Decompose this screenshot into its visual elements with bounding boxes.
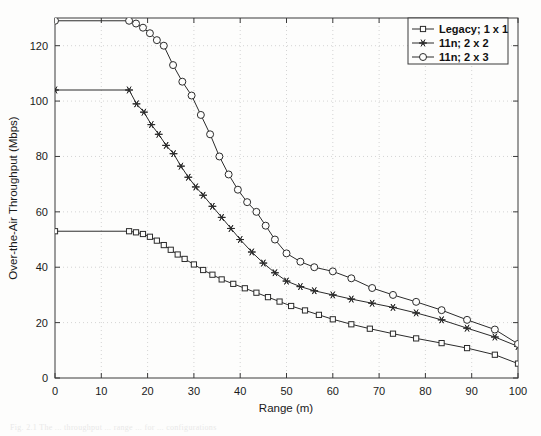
- square-marker: [367, 326, 372, 331]
- square-marker: [464, 345, 469, 350]
- square-marker: [147, 234, 152, 239]
- square-marker: [161, 242, 166, 247]
- circle-marker: [160, 42, 167, 49]
- y-tick-label: 20: [36, 317, 48, 329]
- grid-lines: [55, 18, 518, 378]
- circle-marker: [438, 307, 445, 314]
- square-marker: [289, 303, 294, 308]
- star-marker: [389, 304, 397, 311]
- square-marker: [492, 352, 497, 357]
- star-marker: [148, 121, 156, 128]
- star-marker: [125, 87, 133, 94]
- x-axis-ticks: 0102030405060708090100: [52, 18, 527, 397]
- circle-marker: [413, 298, 420, 305]
- circle-marker: [188, 92, 195, 99]
- star-marker: [412, 310, 420, 317]
- circle-marker: [216, 153, 223, 160]
- circle-marker: [52, 17, 59, 24]
- circle-marker: [234, 186, 241, 193]
- circle-marker: [329, 268, 336, 275]
- star-marker: [329, 292, 337, 299]
- x-tick-label: 50: [280, 385, 292, 397]
- square-marker: [140, 231, 145, 236]
- square-marker: [219, 277, 224, 282]
- star-marker: [297, 283, 305, 290]
- x-axis-label: Range (m): [259, 402, 313, 414]
- star-marker: [218, 214, 226, 221]
- star-marker: [227, 225, 235, 232]
- square-marker: [302, 308, 307, 313]
- square-marker: [277, 299, 282, 304]
- circle-marker: [515, 340, 522, 347]
- circle-marker: [262, 222, 269, 229]
- circle-marker: [179, 78, 186, 85]
- star-marker: [185, 174, 193, 181]
- star-marker: [463, 325, 471, 332]
- square-marker: [515, 361, 520, 366]
- star-marker: [177, 163, 185, 170]
- square-marker: [414, 336, 419, 341]
- legend-label-2: 11n; 2 x 3: [439, 51, 489, 63]
- data-series-group: [51, 17, 522, 366]
- x-tick-label: 30: [188, 385, 200, 397]
- y-tick-label: 100: [30, 95, 48, 107]
- y-tick-label: 40: [36, 261, 48, 273]
- square-marker: [154, 238, 159, 243]
- circle-marker: [348, 275, 355, 282]
- square-marker: [201, 267, 206, 272]
- x-tick-label: 80: [419, 385, 431, 397]
- chart-legend[interactable]: Legacy; 1 x 111n; 2 x 211n; 2 x 3: [408, 18, 508, 64]
- square-marker: [242, 286, 247, 291]
- square-marker: [316, 312, 321, 317]
- square-marker: [210, 272, 215, 277]
- circle-marker: [153, 37, 160, 44]
- square-marker: [191, 262, 196, 267]
- square-marker: [126, 229, 131, 234]
- star-marker: [209, 203, 217, 210]
- square-marker: [330, 317, 335, 322]
- x-tick-label: 100: [509, 385, 527, 397]
- throughput-vs-range-chart: 020406080100120 0102030405060708090100 R…: [0, 0, 541, 436]
- circle-marker: [197, 111, 204, 118]
- circle-marker: [126, 17, 133, 24]
- square-marker: [175, 252, 180, 257]
- square-marker: [390, 331, 395, 336]
- circle-marker: [133, 20, 140, 27]
- star-marker: [438, 317, 446, 324]
- x-tick-label: 40: [234, 385, 246, 397]
- x-tick-label: 10: [95, 385, 107, 397]
- square-marker: [52, 229, 57, 234]
- circle-marker: [389, 291, 396, 298]
- y-tick-label: 120: [30, 40, 48, 52]
- y-axis-label: Over-the-Air Throughput (Mbps): [7, 116, 19, 280]
- square-marker: [133, 230, 138, 235]
- circle-marker: [271, 236, 278, 243]
- circle-marker: [491, 326, 498, 333]
- square-marker: [168, 247, 173, 252]
- figure-container: 020406080100120 0102030405060708090100 R…: [0, 0, 541, 436]
- square-marker: [254, 290, 259, 295]
- star-marker: [310, 287, 318, 294]
- square-marker: [265, 295, 270, 300]
- x-tick-label: 60: [327, 385, 339, 397]
- circle-marker: [420, 54, 427, 61]
- circle-marker: [283, 250, 290, 257]
- circle-marker: [253, 208, 260, 215]
- circle-marker: [225, 171, 232, 178]
- star-marker: [491, 334, 499, 341]
- figure-caption: Fig. 2.1 The ... throughput ... range ..…: [0, 423, 541, 435]
- circle-marker: [244, 199, 251, 206]
- legend-label-1: 11n; 2 x 2: [439, 37, 489, 49]
- square-marker: [439, 341, 444, 346]
- square-marker: [231, 281, 236, 286]
- square-marker: [420, 26, 425, 31]
- star-marker: [348, 296, 356, 303]
- circle-marker: [369, 285, 376, 292]
- x-tick-label: 70: [373, 385, 385, 397]
- circle-marker: [297, 258, 304, 265]
- square-marker: [182, 256, 187, 261]
- square-marker: [349, 322, 354, 327]
- y-tick-label: 0: [42, 372, 48, 384]
- legend-label-0: Legacy; 1 x 1: [439, 23, 508, 35]
- y-tick-label: 80: [36, 150, 48, 162]
